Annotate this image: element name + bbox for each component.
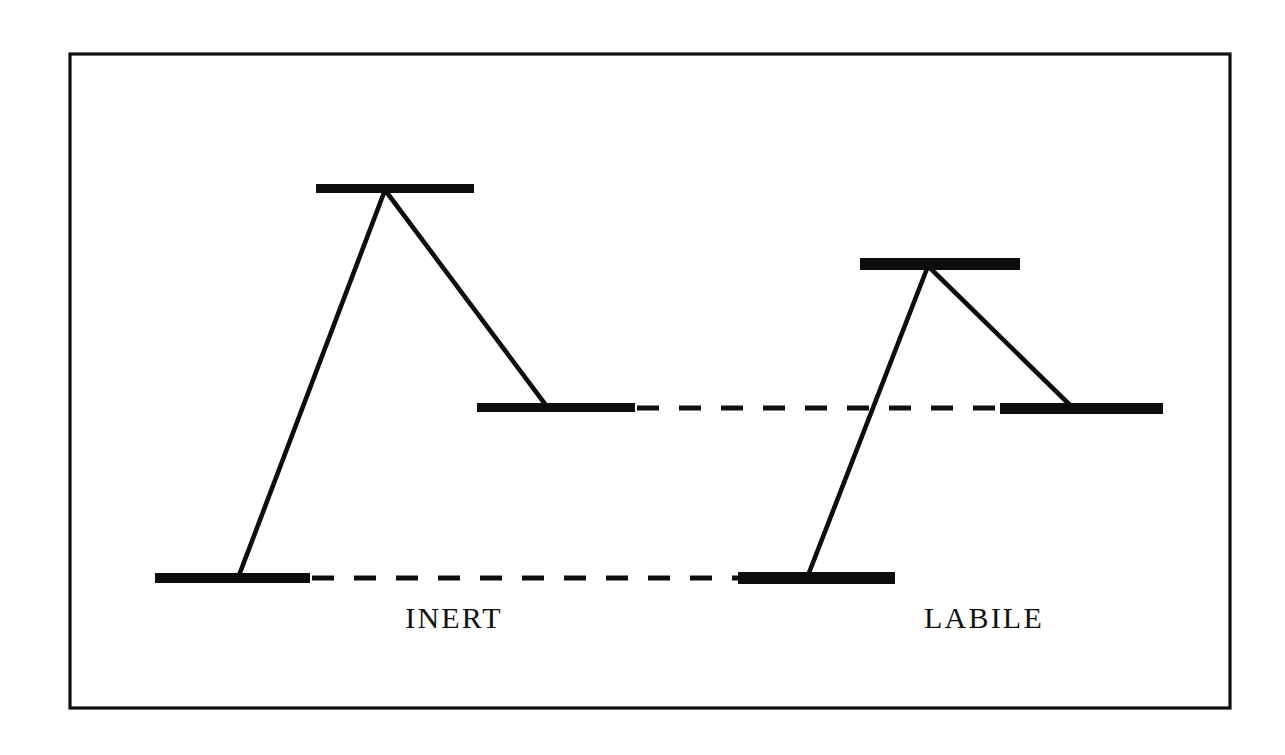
inert-reactant-level bbox=[155, 573, 310, 583]
inert-product-level bbox=[477, 403, 635, 412]
labile-reactant-level bbox=[738, 572, 895, 584]
series-labile bbox=[738, 258, 1163, 584]
labile-ascending-path bbox=[807, 266, 928, 578]
figure-border bbox=[70, 54, 1230, 708]
series-inert bbox=[155, 184, 635, 583]
reaction-energy-diagram: INERT LABILE bbox=[0, 0, 1285, 755]
label-labile: LABILE bbox=[924, 601, 1044, 634]
energy-profile-canvas: INERT LABILE bbox=[0, 0, 1285, 755]
label-inert: INERT bbox=[405, 601, 503, 634]
labile-transition-state-level bbox=[860, 258, 1020, 270]
labile-product-level bbox=[1000, 403, 1163, 414]
inert-ascending-path bbox=[238, 190, 385, 578]
labile-descending-path bbox=[928, 266, 1073, 408]
inert-descending-path bbox=[385, 190, 548, 408]
inert-transition-state-level bbox=[316, 184, 474, 193]
